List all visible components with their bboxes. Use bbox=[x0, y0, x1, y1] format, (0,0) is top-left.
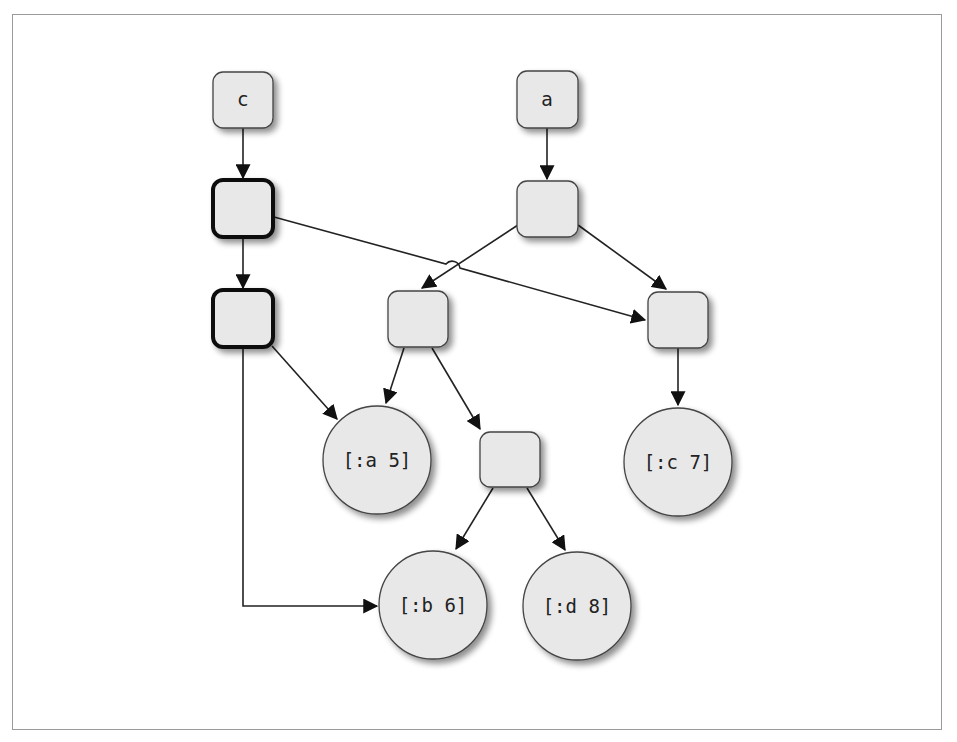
node-root-c[interactable]: c bbox=[213, 72, 273, 128]
node-c-path-2[interactable] bbox=[213, 290, 273, 347]
edge-l-to-b6 bbox=[456, 488, 493, 549]
leaf-a5-label: [:a 5] bbox=[343, 449, 412, 471]
edge-m-to-a5 bbox=[386, 348, 404, 403]
leaf-a5[interactable]: [:a 5] bbox=[323, 406, 431, 514]
edge-a1-to-r bbox=[578, 225, 666, 289]
edge-l-to-d8 bbox=[527, 488, 565, 550]
leaf-c7[interactable]: [:c 7] bbox=[624, 408, 732, 516]
root-c-label: c bbox=[238, 88, 248, 110]
tree-diagram: c a [:a 5] [:c 7] bbox=[0, 0, 957, 742]
node-lower[interactable] bbox=[480, 432, 540, 487]
leaf-b6-label: [:b 6] bbox=[399, 594, 468, 616]
edge-m-to-l bbox=[432, 348, 480, 429]
leaf-b6[interactable]: [:b 6] bbox=[379, 551, 487, 659]
node-right[interactable] bbox=[648, 292, 708, 348]
edge-c2-to-a5 bbox=[272, 346, 337, 419]
leaf-d8[interactable]: [:d 8] bbox=[523, 552, 631, 660]
node-root-a[interactable]: a bbox=[517, 71, 578, 128]
root-a-label: a bbox=[541, 88, 553, 110]
node-middle[interactable] bbox=[388, 291, 448, 347]
box-nodes: c a bbox=[213, 71, 708, 487]
leaf-c7-label: [:c 7] bbox=[644, 451, 713, 473]
leaf-d8-label: [:d 8] bbox=[543, 595, 612, 617]
edge-a1-to-m bbox=[422, 225, 518, 288]
edges bbox=[243, 128, 678, 606]
node-a-child[interactable] bbox=[517, 181, 578, 237]
node-c-path-1[interactable] bbox=[213, 180, 273, 237]
